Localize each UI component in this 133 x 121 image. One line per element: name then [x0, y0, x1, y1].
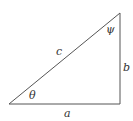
triangle-shape — [9, 13, 120, 104]
label-angle-psi: ψ — [106, 23, 115, 36]
label-angle-theta: θ — [29, 89, 36, 102]
right-triangle-diagram: c ψ b θ a — [0, 0, 133, 121]
label-side-a: a — [64, 107, 71, 120]
label-hypotenuse-c: c — [56, 45, 62, 58]
label-side-b: b — [123, 61, 130, 74]
